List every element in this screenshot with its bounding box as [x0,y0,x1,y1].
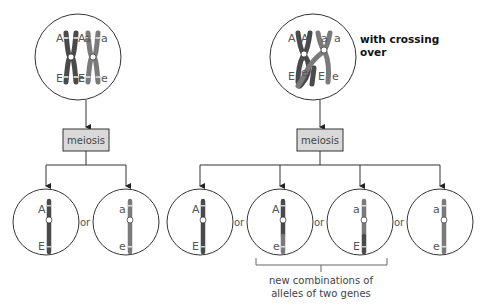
parent-cell-crossover: A A a a E e E e [270,14,356,100]
allele-label: A [192,203,200,216]
gamete-ae: a e [93,189,159,255]
allele-label: e [101,72,108,85]
or-separator: or [394,217,405,228]
allele-label: e [78,72,85,85]
recombinant-bracket [256,258,387,272]
allele-label: e [119,240,126,253]
allele-label: a [353,203,360,216]
branch-connector-left [46,151,126,186]
allele-label: e [332,70,339,83]
allele-label: a [433,203,440,216]
meiosis-label: meiosis [301,135,339,146]
allele-label: E [192,240,199,253]
crossover-title-line2: over [360,46,387,58]
allele-label: E [288,70,295,83]
gamete-ae: a e [407,189,473,255]
allele-label: E [38,240,45,253]
allele-label: e [301,66,308,79]
allele-label: a [321,32,328,45]
gamete-aE-recombinant: a E [327,189,393,255]
allele-label: A [272,203,280,216]
gamete-Ae-recombinant: A e [247,189,313,255]
allele-label: a [334,32,341,45]
caption-line1: new combinations of [269,275,373,286]
allele-label: E [318,70,325,83]
gamete-AE: A E [167,189,233,255]
allele-label: E [56,72,63,85]
meiosis-label: meiosis [67,135,105,146]
allele-label: e [273,240,280,253]
allele-label: a [101,32,108,45]
right-panel: A A a a E e E e with crossing over meios… [167,14,473,299]
meiosis-box-left: meiosis [63,129,109,151]
allele-label: A [38,203,46,216]
or-separator: or [314,217,325,228]
caption-line2: alleles of two genes [271,288,371,299]
meiosis-crossing-over-diagram: A A a a E E e e meiosis A E [0,0,487,306]
parent-cell-no-crossover: A A a a E E e e [35,14,121,100]
allele-label: e [433,240,440,253]
allele-label: A [56,32,64,45]
branch-connector-right [200,151,440,186]
allele-label: A [301,32,309,45]
or-separator: or [80,217,91,228]
left-panel: A A a a E E e e meiosis A E [13,14,159,255]
gamete-AE: A E [13,189,79,255]
allele-label: a [119,203,126,216]
allele-label: a [84,32,91,45]
meiosis-box-right: meiosis [297,129,343,151]
or-separator: or [234,217,245,228]
allele-label: E [353,240,360,253]
allele-label: A [288,32,296,45]
crossover-title-line1: with crossing [360,33,439,45]
